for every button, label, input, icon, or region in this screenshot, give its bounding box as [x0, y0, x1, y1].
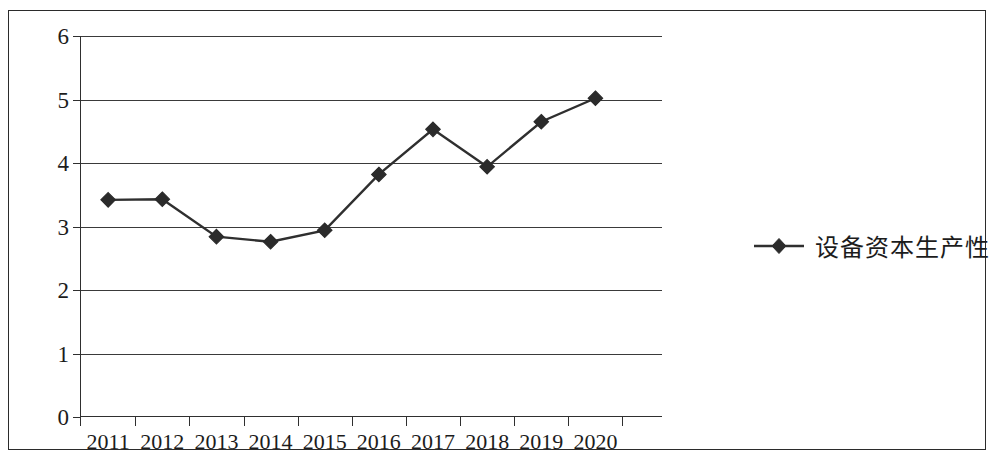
series-line	[108, 98, 595, 242]
x-tick-mark	[568, 417, 569, 426]
diamond-marker-icon	[752, 236, 806, 256]
series-line-group	[80, 36, 662, 417]
y-tick-label: 4	[58, 152, 70, 175]
x-tick-mark	[622, 417, 623, 426]
y-tick-mark	[73, 163, 80, 164]
y-tick-label: 1	[58, 342, 70, 365]
x-tick-label: 2012	[140, 431, 184, 453]
y-tick-mark	[73, 290, 80, 291]
x-tick-mark	[80, 417, 81, 426]
x-tick-mark	[135, 417, 136, 426]
y-tick-label: 0	[58, 406, 70, 429]
x-tick-mark	[406, 417, 407, 426]
x-tick-mark	[352, 417, 353, 426]
y-tick-label: 6	[58, 25, 70, 48]
x-tick-label: 2016	[357, 431, 401, 453]
y-tick-mark	[73, 227, 80, 228]
x-tick-mark	[244, 417, 245, 426]
x-tick-mark	[298, 417, 299, 426]
data-point-marker	[263, 235, 277, 249]
y-tick-label: 3	[58, 215, 70, 238]
chart-figure: 0123456 20112012201320142015201620172018…	[0, 0, 996, 464]
y-tick-mark	[73, 354, 80, 355]
x-tick-label: 2013	[194, 431, 238, 453]
data-point-marker	[588, 91, 602, 105]
x-tick-label: 2020	[573, 431, 617, 453]
legend-label: 设备资本生产性	[815, 228, 990, 263]
y-tick-mark	[73, 36, 80, 37]
x-tick-mark	[460, 417, 461, 426]
y-tick-mark	[73, 100, 80, 101]
plot-area: 0123456 20112012201320142015201620172018…	[80, 36, 662, 417]
y-tick-mark	[73, 417, 80, 418]
y-tick-label: 5	[58, 88, 70, 111]
data-point-marker	[101, 193, 115, 207]
x-tick-mark	[189, 417, 190, 426]
x-tick-label: 2018	[465, 431, 509, 453]
chart-legend: 设备资本生产性	[752, 228, 990, 263]
data-point-marker	[209, 229, 223, 243]
x-tick-label: 2011	[87, 431, 130, 453]
data-point-marker	[155, 192, 169, 206]
x-tick-label: 2019	[519, 431, 563, 453]
x-tick-label: 2014	[249, 431, 293, 453]
x-tick-label: 2017	[411, 431, 455, 453]
y-tick-label: 2	[58, 279, 70, 302]
x-tick-mark	[514, 417, 515, 426]
x-tick-label: 2015	[303, 431, 347, 453]
